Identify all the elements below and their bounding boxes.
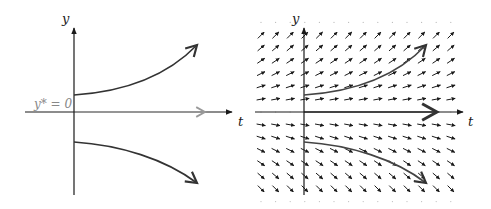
field-arrow (447, 173, 454, 179)
field-arrow (374, 161, 381, 166)
field-arrow (447, 161, 454, 166)
field-arrow (433, 186, 439, 192)
field-arrow (315, 148, 323, 152)
field-arrow (432, 85, 441, 88)
field-dot (392, 201, 393, 202)
field-arrow (331, 45, 338, 51)
field-arrow (330, 85, 339, 88)
field-arrow (447, 58, 454, 63)
field-arrow (417, 85, 426, 88)
field-dot (290, 22, 291, 23)
field-arrow (330, 72, 338, 76)
field-dot (406, 201, 407, 202)
field-arrow (301, 85, 310, 88)
field-arrow (331, 32, 337, 38)
field-arrow (287, 58, 294, 63)
field-arrow (388, 124, 397, 126)
field-dot (333, 22, 334, 23)
field-arrow (447, 72, 455, 76)
field-arrow (403, 136, 412, 139)
field-arrow (388, 136, 397, 139)
field-arrow (344, 98, 353, 100)
field-arrow (345, 32, 351, 38)
right-upper-solution-curve (304, 45, 426, 95)
field-arrow (316, 186, 322, 192)
field-arrow (287, 161, 294, 166)
field-arrow (432, 124, 441, 126)
field-arrow (389, 45, 396, 51)
field-arrow (286, 124, 295, 126)
field-arrow (345, 161, 352, 166)
field-arrow (301, 173, 308, 179)
field-arrow (389, 173, 396, 179)
field-arrow (301, 148, 309, 152)
field-arrow (388, 85, 397, 88)
field-arrow (330, 161, 337, 166)
field-dot (333, 201, 334, 202)
field-arrow (345, 173, 352, 179)
field-arrow (446, 124, 455, 126)
field-arrow (418, 58, 425, 63)
field-arrow (388, 98, 397, 100)
field-arrow (257, 58, 264, 63)
field-arrow (315, 85, 324, 88)
field-arrow (374, 136, 383, 139)
field-dot (348, 201, 349, 202)
field-arrow (344, 136, 353, 139)
field-arrow (258, 45, 265, 51)
field-arrow (374, 72, 382, 76)
right-panel: y t (255, 11, 474, 202)
field-arrow (447, 85, 456, 88)
field-arrow (272, 72, 280, 76)
field-dot (260, 201, 261, 202)
field-arrow (258, 186, 264, 192)
field-arrow (330, 148, 338, 152)
field-arrow (418, 161, 425, 166)
field-arrow (446, 98, 455, 100)
field-arrow (404, 186, 410, 192)
field-arrow (344, 124, 353, 126)
field-dot (304, 201, 305, 202)
field-arrow (375, 186, 381, 192)
field-arrow (257, 98, 266, 100)
field-arrow (404, 32, 410, 38)
field-arrow (433, 161, 440, 166)
field-dot (406, 22, 407, 23)
field-arrow (360, 161, 367, 166)
field-arrow (417, 136, 426, 139)
field-arrow (374, 45, 381, 51)
field-arrow (448, 186, 454, 192)
field-dot (436, 201, 437, 202)
field-arrow (315, 136, 324, 139)
field-dot (319, 201, 320, 202)
field-arrow (345, 186, 351, 192)
field-arrow (331, 173, 338, 179)
field-arrow (330, 98, 339, 100)
field-arrow (360, 45, 367, 51)
field-arrow (272, 148, 280, 152)
field-arrow (272, 32, 278, 38)
field-arrow (447, 136, 456, 139)
field-arrow (257, 72, 265, 76)
field-arrow (257, 124, 266, 126)
field-dot (392, 22, 393, 23)
field-arrow (432, 98, 441, 100)
field-arrow (330, 58, 337, 63)
field-dot (304, 22, 305, 23)
field-dot (260, 22, 261, 23)
field-arrow (374, 58, 381, 63)
field-arrow (257, 148, 265, 152)
field-arrow (287, 45, 294, 51)
field-dot (275, 22, 276, 23)
left-equilibrium-label: y* = 0 (33, 97, 72, 111)
field-arrow (258, 173, 265, 179)
field-arrow (271, 98, 280, 100)
field-arrow (301, 45, 308, 51)
field-arrow (258, 32, 264, 38)
field-arrow (286, 136, 295, 139)
field-arrow (373, 124, 382, 126)
field-arrow (448, 32, 454, 38)
field-dot (450, 201, 451, 202)
field-arrow (316, 173, 323, 179)
field-arrow (374, 173, 381, 179)
